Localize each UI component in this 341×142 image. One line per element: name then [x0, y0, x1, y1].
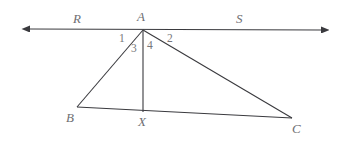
- geometry-figure: R S A B C X 1 2 3 4: [0, 0, 341, 142]
- label-angle-4: 4: [147, 40, 153, 52]
- label-angle-2: 2: [167, 33, 173, 45]
- geometry-canvas: [0, 0, 341, 142]
- segment-bc: [77, 107, 292, 118]
- label-x: X: [138, 115, 146, 128]
- label-r: R: [73, 12, 81, 25]
- label-c: C: [292, 122, 301, 135]
- segment-ac: [143, 30, 292, 118]
- label-angle-1: 1: [119, 33, 125, 45]
- label-angle-3: 3: [131, 43, 137, 55]
- label-s: S: [236, 12, 243, 25]
- line-rs: [30, 29, 321, 30]
- label-b: B: [66, 111, 74, 124]
- label-a: A: [137, 10, 145, 23]
